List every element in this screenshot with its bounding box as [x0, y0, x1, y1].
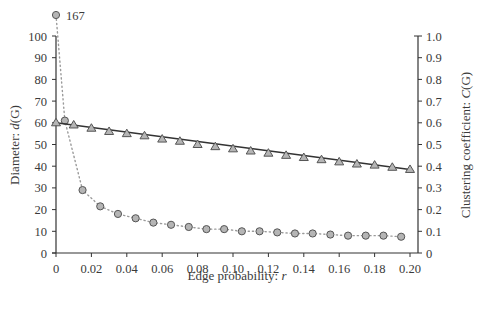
x-axis-title: Edge probability: r	[188, 268, 288, 283]
x-tick-label: 0.14	[293, 262, 316, 276]
circle-marker	[221, 226, 228, 233]
circle-marker	[79, 186, 86, 193]
y-right-tick-label: 0.7	[426, 95, 442, 109]
x-tick-label: 0.18	[364, 262, 386, 276]
triangle-marker	[175, 137, 184, 145]
y-right-tick-label: 0.3	[426, 181, 442, 195]
y-right-tick-label: 0.6	[426, 116, 442, 130]
circle-marker	[256, 228, 263, 235]
circle-marker	[97, 203, 104, 210]
triangle-marker	[52, 118, 61, 126]
circle-marker	[327, 231, 334, 238]
diameter-dotted-line	[56, 15, 401, 237]
y-left-tick-label: 10	[35, 225, 48, 239]
y-axis-right-title: Clustering coefficient: C(G)	[458, 72, 473, 218]
axes: 010203040506070809010000.10.20.30.40.50.…	[28, 30, 442, 277]
circle-marker	[150, 219, 157, 226]
diameter-series	[52, 11, 404, 240]
y-left-tick-label: 20	[35, 203, 48, 217]
y-left-tick-label: 90	[35, 51, 48, 65]
circle-marker	[114, 210, 121, 217]
circle-marker	[238, 228, 245, 235]
circle-marker	[309, 230, 316, 237]
y-left-tick-label: 60	[35, 116, 48, 130]
circle-marker	[132, 215, 139, 222]
circle-marker	[344, 232, 351, 239]
y-right-tick-label: 0.5	[426, 138, 442, 152]
y-left-tick-label: 0	[41, 247, 47, 261]
y-left-tick-label: 80	[35, 73, 48, 87]
x-tick-label: 0.20	[399, 262, 421, 276]
y-axis-left-title: Diameter: d(G)	[7, 105, 22, 185]
y-left-tick-label: 30	[35, 181, 48, 195]
chart-svg: 010203040506070809010000.10.20.30.40.50.…	[0, 0, 484, 311]
y-right-tick-label: 0.9	[426, 51, 442, 65]
y-right-tick-label: 0	[426, 247, 432, 261]
circle-marker	[380, 232, 387, 239]
y-left-tick-label: 100	[28, 30, 47, 44]
clustering-series	[52, 118, 415, 172]
circle-marker	[185, 223, 192, 230]
x-tick-label: 0.02	[80, 262, 102, 276]
circle-marker	[362, 232, 369, 239]
x-tick-label: 0.06	[151, 262, 173, 276]
y-right-tick-label: 0.1	[426, 225, 442, 239]
y-right-tick-label: 0.2	[426, 203, 442, 217]
y-right-tick-label: 0.8	[426, 73, 442, 87]
y-left-tick-label: 70	[35, 95, 48, 109]
annotations: 167	[66, 9, 85, 23]
circle-marker	[291, 230, 298, 237]
y-left-tick-label: 40	[35, 160, 48, 174]
y-right-tick-label: 1.0	[426, 30, 442, 44]
y-right-tick-label: 0.4	[426, 160, 442, 174]
x-tick-label: 0	[53, 262, 59, 276]
off-scale-value-label: 167	[66, 9, 85, 23]
circle-marker	[167, 221, 174, 228]
circle-marker	[203, 226, 210, 233]
circle-marker	[274, 229, 281, 236]
y-left-tick-label: 50	[35, 138, 48, 152]
x-tick-label: 0.16	[328, 262, 350, 276]
x-tick-label: 0.04	[116, 262, 139, 276]
circle-marker	[52, 11, 59, 18]
circle-marker	[398, 233, 405, 240]
triangle-marker	[299, 153, 308, 161]
